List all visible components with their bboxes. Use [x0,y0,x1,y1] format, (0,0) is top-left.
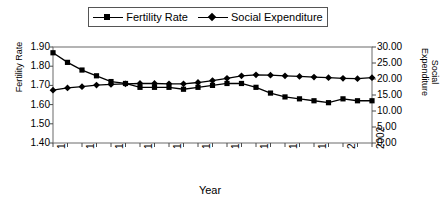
plot-area [0,0,443,201]
chart-container: Fertility Rate Social Expenditure Fertil… [0,0,443,201]
